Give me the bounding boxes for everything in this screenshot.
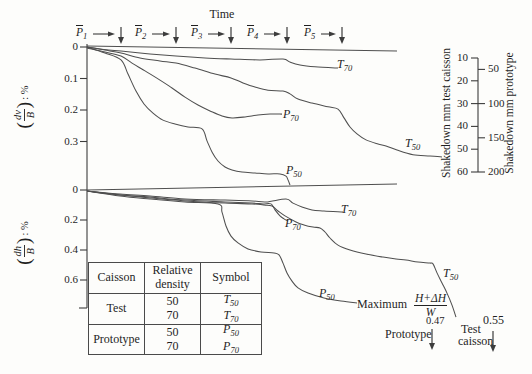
load-parcel-h-arrow-5-head: [329, 31, 336, 36]
cell-caisson: Prototype: [89, 325, 144, 354]
fraction-numerator: H+ΔH: [414, 292, 447, 306]
y-axis-title-dh: ( dh B ) : %: [4, 208, 44, 278]
curve-P50-vertical-displacement: [87, 47, 290, 185]
y-tick-label-horizontal-displacement: 0.2: [54, 213, 78, 225]
scale-label-test-30: 30: [438, 97, 468, 109]
percent-suffix: : %: [19, 86, 30, 100]
load-parcel-down-arrow-1-head: [118, 37, 124, 44]
paren-open: (: [13, 258, 35, 264]
load-parcel-label-5: P5: [304, 26, 315, 41]
curve-label-P70-horizontal-displacement: P70: [285, 216, 301, 232]
load-parcel-h-arrow-2-head: [163, 31, 170, 36]
cell-caisson: Test: [89, 294, 144, 324]
y-tick-label-vertical-displacement: 0.2: [54, 103, 78, 115]
table-row-prototype: Prototype 50 70 P50 P70: [89, 324, 261, 354]
scale-label-prototype-200: 200: [488, 165, 520, 177]
y-tick-label-horizontal-displacement: 0.4: [54, 243, 78, 255]
time-axis-title: Time: [199, 7, 245, 22]
density-value: 70: [167, 309, 179, 323]
load-parcel-h-arrow-4-head: [274, 31, 281, 36]
curve-label-P50-horizontal-displacement: P50: [319, 286, 335, 302]
load-parcel-label-3: P3: [191, 26, 202, 41]
dh-over-B-fraction: dh B: [12, 245, 36, 258]
load-parcel-label-1: P1: [76, 26, 87, 41]
scale-label-test-60: 60: [438, 165, 468, 177]
curve-label-T70-vertical-displacement: T70: [337, 57, 352, 73]
load-parcel-down-arrow-2-head: [173, 37, 179, 44]
test-caisson-label-line2: caisson: [458, 334, 493, 349]
curve-label-T50-horizontal-displacement: T50: [443, 266, 458, 282]
load-parcel-down-arrow-3-head: [228, 37, 234, 44]
scale-label-test-10: 10: [438, 51, 468, 63]
table-row-test: Test 50 70 T50 T70: [89, 293, 261, 324]
paren-close: ): [13, 238, 35, 244]
curve-P70-vertical-displacement: [87, 48, 282, 118]
scale-label-test-50: 50: [438, 142, 468, 154]
cell-densities: 50 70: [144, 325, 200, 354]
load-parcel-h-arrow-3-head: [218, 31, 225, 36]
prototype-max-arrow-head: [429, 343, 435, 350]
load-parcel-down-arrow-4-head: [284, 37, 290, 44]
scale-label-prototype-100: 100: [488, 97, 520, 109]
y-tick-label-horizontal-displacement: 0: [54, 183, 78, 195]
maximum-label: Maximum: [357, 297, 407, 312]
scale-label-prototype-50: 50: [488, 62, 520, 74]
curve-label-P50-vertical-displacement: P50: [286, 163, 302, 179]
curve-applied-load-horizontal-displacement: [87, 184, 397, 190]
fraction-denominator: B: [25, 248, 37, 254]
y-axis-title-dv: ( dv B ) : %: [4, 72, 44, 142]
density-value: 70: [167, 340, 179, 354]
header-symbol: Symbol: [200, 263, 261, 293]
y-tick-label-vertical-displacement: 0.1: [54, 72, 78, 84]
curve-applied-load-vertical-displacement: [87, 46, 397, 51]
curve-label-T50-vertical-displacement: T50: [405, 136, 420, 152]
y-tick-label-vertical-displacement: 0.3: [54, 135, 78, 147]
table-header-row: Caisson Relative density Symbol: [89, 263, 261, 293]
load-parcel-label-2: P2: [135, 26, 146, 41]
load-parcel-down-arrow-5-head: [339, 37, 345, 44]
curve-label-T70-horizontal-displacement: T70: [341, 202, 356, 218]
symbol-T50: T50: [223, 293, 238, 309]
header-caisson: Caisson: [89, 263, 144, 293]
cell-symbols: P50 P70: [200, 325, 261, 354]
header-relative-density: Relative density: [144, 263, 200, 293]
cell-symbols: T50 T70: [200, 294, 261, 324]
percent-suffix: : %: [19, 221, 30, 235]
scale-label-test-20: 20: [438, 74, 468, 86]
paren-open: (: [13, 122, 35, 128]
load-parcel-label-4: P4: [247, 26, 258, 41]
fraction-numerator: dh: [12, 245, 25, 258]
scale-label-test-40: 40: [438, 119, 468, 131]
paren-close: ): [13, 102, 35, 108]
fraction-numerator: dv: [12, 109, 25, 121]
prototype-label: Prototype: [385, 327, 432, 342]
density-value: 50: [167, 326, 179, 340]
prototype-max-value: 0.47: [426, 315, 444, 326]
legend-table: Caisson Relative density Symbol Test 50 …: [88, 262, 262, 355]
scale-label-prototype-150: 150: [488, 131, 520, 143]
fraction-denominator: B: [25, 112, 37, 118]
y-tick-label-vertical-displacement: 0: [54, 40, 78, 52]
test-caisson-max-value: 0.55: [483, 313, 504, 328]
dv-over-B-fraction: dv B: [12, 109, 36, 121]
cell-densities: 50 70: [144, 294, 200, 324]
figure-canvas: Time ( dv B ) : % ( dh B ) : % Shakedown…: [0, 0, 532, 374]
curve-label-P70-vertical-displacement: P70: [283, 107, 299, 123]
symbol-P50: P50: [223, 323, 239, 339]
y-tick-label-horizontal-displacement: 0.6: [54, 273, 78, 285]
density-value: 50: [167, 295, 179, 309]
curve-T50-vertical-displacement: [87, 47, 442, 157]
load-parcel-h-arrow-1-head: [108, 31, 115, 36]
symbol-P70: P70: [223, 340, 239, 356]
